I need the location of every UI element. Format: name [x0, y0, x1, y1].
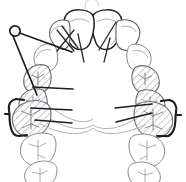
dental-arch-illustration	[0, 0, 186, 182]
tooth-second-molar-left	[20, 133, 56, 166]
tooth-first-molar-left	[12, 101, 51, 137]
dental-arch-figure	[0, 0, 186, 182]
tooth-second-molar-right	[129, 134, 165, 167]
partial-circle-marker-top	[85, 0, 99, 11]
tooth-first-molar-right	[134, 102, 173, 138]
